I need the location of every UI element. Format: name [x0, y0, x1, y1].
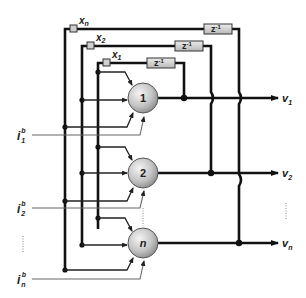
- bias-labels: i1b i2b inb: [17, 127, 27, 288]
- input-label-n: xn: [78, 15, 89, 27]
- bias-lines: [32, 117, 144, 279]
- output-labels: v1 v2 vn: [282, 92, 292, 251]
- neuron-1: 1: [128, 83, 158, 113]
- delay-unit-n: z-1: [204, 24, 232, 34]
- input-node-n: [70, 25, 77, 32]
- delay-unit-2: z-1: [175, 41, 203, 51]
- neuron-2: 2: [128, 158, 158, 188]
- feedback-loop-n: [231, 29, 241, 243]
- output-label-1: v1: [282, 92, 292, 106]
- bias-label-n: inb: [17, 271, 27, 288]
- svg-text:1: 1: [140, 92, 146, 104]
- feedback-loop-2: [202, 46, 213, 173]
- input-label-1: x1: [111, 49, 122, 61]
- output-lines: [158, 98, 278, 243]
- input-node-2: [87, 42, 94, 49]
- bias-label-2: i2b: [17, 200, 26, 217]
- output-label-2: v2: [282, 167, 292, 181]
- svg-text:n: n: [140, 237, 147, 249]
- hopfield-network-diagram: z-1 z-1 z-1 1 2 n xn x2 x1 v1: [0, 0, 306, 298]
- input-label-2: x2: [95, 32, 106, 44]
- input-labels: xn x2 x1: [78, 15, 122, 61]
- svg-text:2: 2: [140, 167, 146, 179]
- output-label-n: vn: [282, 237, 292, 251]
- input-node-1: [103, 59, 110, 66]
- delay-unit-1: z-1: [147, 58, 175, 68]
- neurons: 1 2 n: [128, 83, 158, 258]
- bias-label-1: i1b: [17, 127, 26, 144]
- neuron-n: n: [128, 228, 158, 258]
